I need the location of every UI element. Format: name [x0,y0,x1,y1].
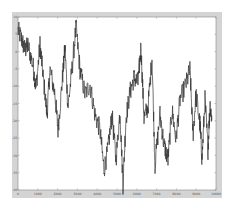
y-tick-label: -30 [12,154,17,158]
line-chart: 0100020003000400050006000700080009000100… [12,12,222,198]
x-tick-label: 6000 [133,192,141,196]
x-tick-label: 3000 [73,192,81,196]
x-tick-label: 4000 [93,192,101,196]
x-tick-label: 1000 [34,192,42,196]
x-tick-label: 7000 [153,192,161,196]
x-tick-label: 5000 [113,192,121,196]
figure-frame: 0100020003000400050006000700080009000100… [12,12,222,198]
x-tick-label: 8000 [172,192,180,196]
y-tick-label: 5 [15,32,17,36]
y-tick-label: 10 [13,15,17,19]
x-tick-label: 10000 [211,192,221,196]
y-tick-label: 0 [15,50,17,54]
x-tick-label: 2000 [54,192,62,196]
y-tick-label: -10 [12,84,17,88]
x-tick-label: 0 [17,192,19,196]
y-tick-label: -15 [12,102,17,106]
y-tick-label: -20 [12,119,17,123]
y-tick-label: -40 [12,188,17,192]
y-tick-label: -35 [12,171,17,175]
y-tick-label: -5 [14,67,17,71]
x-tick-label: 9000 [192,192,200,196]
y-tick-label: -25 [12,136,17,140]
